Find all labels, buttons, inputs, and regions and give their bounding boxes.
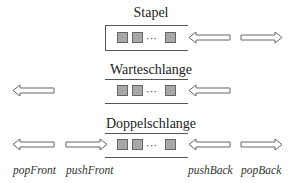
stack-top-border: [105, 25, 188, 26]
queue-bottom-border: [105, 103, 188, 104]
deque-element: [132, 139, 143, 150]
queue-top-border: [105, 79, 188, 80]
queue-enqueue-arrow-left-icon: [188, 84, 231, 97]
stack-title: Stapel: [121, 5, 181, 21]
label-pop-back: popBack: [241, 164, 281, 177]
deque-title: Doppelschlange: [98, 116, 204, 132]
stack-element: [132, 32, 143, 43]
deque-top-border: [105, 133, 188, 134]
deque-element: [165, 139, 176, 150]
stack-bottom-wall: [105, 25, 106, 51]
stack-ellipsis: ···: [146, 33, 157, 44]
deque-element: [117, 139, 128, 150]
queue-dequeue-arrow-left-icon: [12, 84, 55, 97]
stack-push-arrow-left-icon: [188, 31, 231, 44]
label-push-front: pushFront: [66, 164, 114, 177]
queue-ellipsis: ···: [146, 86, 157, 97]
deque-pop-back-arrow-right-icon: [240, 138, 283, 151]
stack-bottom-border: [105, 50, 188, 51]
deque-bottom-border: [105, 157, 188, 158]
label-push-back: pushBack: [188, 164, 233, 177]
deque-pop-front-arrow-left-icon: [12, 138, 55, 151]
stack-element: [165, 32, 176, 43]
queue-element: [165, 85, 176, 96]
deque-push-front-arrow-right-icon: [65, 138, 108, 151]
stack-pop-arrow-right-icon: [240, 31, 283, 44]
deque-ellipsis: ···: [146, 140, 157, 151]
queue-element: [117, 85, 128, 96]
stack-element: [117, 32, 128, 43]
queue-element: [132, 85, 143, 96]
queue-title: Warteschlange: [101, 62, 201, 78]
deque-push-back-arrow-left-icon: [188, 138, 231, 151]
label-pop-front: popFront: [13, 164, 56, 177]
